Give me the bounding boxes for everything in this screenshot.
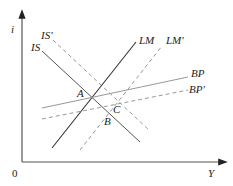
bp-label: BP [191,68,204,79]
bp-prime-label: BP' [189,84,205,95]
is-prime-label: IS' [41,30,53,41]
y-axis-label: i [11,24,14,35]
point-a-label: A [77,88,84,99]
point-c-label: C [113,104,120,115]
is-label: IS [31,42,40,53]
point-b-label: B [104,116,111,127]
lm-prime-label: LM' [166,35,184,46]
is-curve [42,51,140,142]
origin-label: 0 [12,168,18,179]
x-axis-label: Y [208,168,214,179]
lm-label: LM [139,35,154,46]
